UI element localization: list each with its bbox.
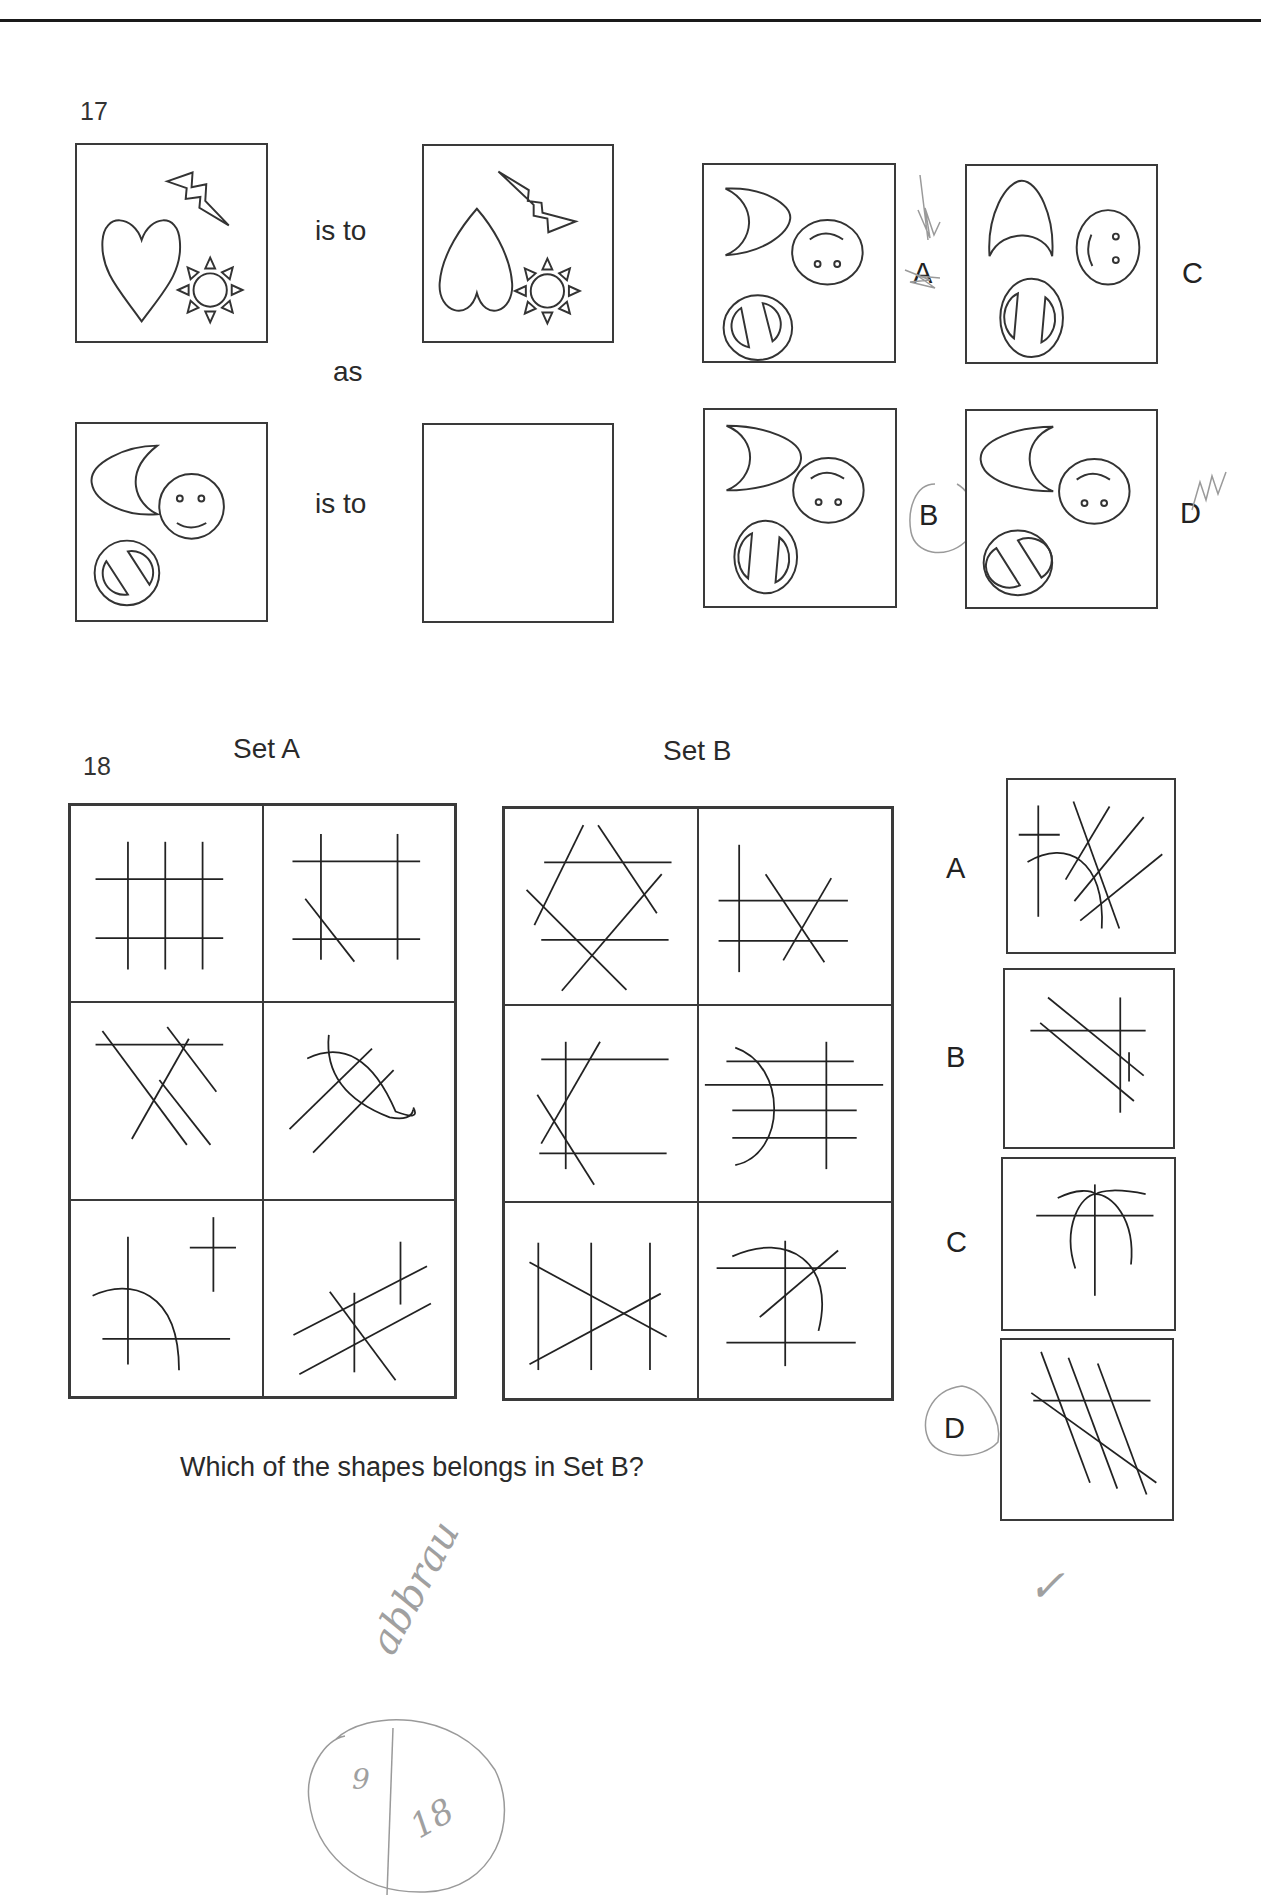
set-b-cell-4 [698, 1005, 892, 1202]
q18-option-d-label[interactable]: D [944, 1412, 965, 1445]
score-circle [305, 1700, 515, 1895]
relation-text-is-to-2: is to [315, 488, 366, 520]
relation-text-is-to-1: is to [315, 215, 366, 247]
set-a-cell-2 [263, 805, 456, 1002]
heart-bolt-sun-figure [77, 145, 266, 341]
question-18-number: 18 [83, 752, 111, 781]
set-a-cell-6 [263, 1200, 456, 1397]
q18-option-b-figure [1005, 970, 1173, 1147]
handwritten-word: abbrau [360, 1513, 468, 1662]
q18-option-a-label[interactable]: A [946, 852, 965, 885]
q17-option-a-label[interactable]: A [913, 257, 932, 290]
q18-option-d-figure [1002, 1340, 1172, 1519]
set-a-cell-5 [70, 1200, 263, 1397]
set-b-cell-3 [504, 1005, 698, 1202]
set-a-cell-4 [263, 1002, 456, 1199]
option-a-figure [704, 165, 894, 361]
q18-option-c-figure [1003, 1159, 1174, 1329]
connector-text-as: as [333, 356, 363, 388]
q17-option-c-box[interactable] [965, 164, 1158, 364]
q17-answer-blank-box [422, 423, 614, 623]
set-b-grid [502, 806, 894, 1401]
set-b-cell-1 [504, 808, 698, 1005]
q17-option-c-label[interactable]: C [1182, 257, 1203, 290]
score-denominator: 18 [403, 1790, 460, 1846]
set-a-cell-1 [70, 805, 263, 1002]
set-b-title: Set B [663, 735, 731, 767]
q18-option-a-box[interactable] [1006, 778, 1176, 954]
q17-option-b-label[interactable]: B [919, 499, 938, 532]
set-a-grid [68, 803, 457, 1399]
q18-option-c-box[interactable] [1001, 1157, 1176, 1331]
question-17-number: 17 [80, 97, 108, 126]
score-numerator: 9 [352, 1763, 370, 1796]
option-b-figure [705, 410, 895, 606]
q18-option-b-box[interactable] [1003, 968, 1175, 1149]
q18-option-a-figure [1008, 780, 1174, 952]
checkmark-icon: ✓ [1028, 1560, 1065, 1611]
moon-smiley-noentry-figure [77, 424, 266, 620]
q17-stimulus-2-box [75, 422, 268, 622]
q18-option-c-label[interactable]: C [946, 1226, 967, 1259]
option-d-figure [967, 411, 1156, 607]
q17-option-d-box[interactable] [965, 409, 1158, 609]
top-divider [0, 19, 1261, 22]
q17-option-d-label[interactable]: D [1180, 497, 1201, 530]
set-b-cell-2 [698, 808, 892, 1005]
set-b-cell-5 [504, 1202, 698, 1399]
heart-inverted-bolt-sun-figure [424, 146, 612, 341]
q18-prompt: Which of the shapes belongs in Set B? [180, 1452, 644, 1483]
set-b-cell-6 [698, 1202, 892, 1399]
q17-stimulus-1-box [75, 143, 268, 343]
q18-option-d-box[interactable] [1000, 1338, 1174, 1521]
q17-response-1-box [422, 144, 614, 343]
q18-option-b-label[interactable]: B [946, 1041, 965, 1074]
option-c-figure [967, 166, 1156, 362]
set-a-title: Set A [233, 733, 300, 765]
set-a-cell-3 [70, 1002, 263, 1199]
q17-option-b-box[interactable] [703, 408, 897, 608]
q17-option-a-box[interactable] [702, 163, 896, 363]
